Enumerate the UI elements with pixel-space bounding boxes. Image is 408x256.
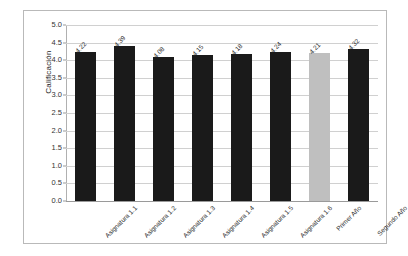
y-axis-tick-label: 0.5	[52, 180, 62, 188]
y-axis-tick-label: 4.5	[52, 39, 62, 47]
y-axis-tick-label: 1.5	[52, 144, 62, 152]
x-axis-category-label: Segundo Año	[376, 205, 408, 237]
y-axis-tick-mark	[63, 95, 66, 96]
y-axis-tick-label: 1.0	[52, 162, 62, 170]
bar[interactable]	[309, 53, 330, 201]
y-axis-tick-label: 2.0	[52, 127, 62, 135]
bar[interactable]	[270, 52, 291, 201]
x-axis-category-label: Asignatura 1.6	[299, 205, 333, 239]
y-axis-tick-label: 2.5	[52, 109, 62, 117]
plot-area: 0.00.51.01.52.02.53.03.54.04.55.0 4.224.…	[66, 25, 378, 201]
x-axis-category-label: Asignatura 1.4	[221, 205, 255, 239]
x-axis-category-label: Asignatura 1.5	[260, 205, 294, 239]
y-axis-tick-mark	[63, 201, 66, 202]
y-axis-tick-mark	[63, 25, 66, 26]
y-axis-tick-label: 4.0	[52, 56, 62, 64]
x-axis-category-label: Asignatura 1.3	[182, 205, 216, 239]
gridline	[66, 25, 378, 26]
x-axis-category-label: Primer Año	[335, 205, 362, 232]
y-axis-tick-mark	[63, 60, 66, 61]
bar[interactable]	[114, 46, 135, 201]
y-axis-tick-mark	[63, 183, 66, 184]
y-axis-tick-mark	[63, 165, 66, 166]
y-axis-tick-mark	[63, 77, 66, 78]
chart-frame: Calificación 0.00.51.01.52.02.53.03.54.0…	[23, 10, 387, 244]
y-axis-tick-label: 3.0	[52, 92, 62, 100]
y-axis-tick-mark	[63, 113, 66, 114]
bar[interactable]	[75, 52, 96, 201]
bar[interactable]	[192, 55, 213, 201]
y-axis-tick-label: 0.0	[52, 197, 62, 205]
y-axis-tick-label: 3.5	[52, 74, 62, 82]
bar[interactable]	[231, 54, 252, 201]
y-axis-tick-mark	[63, 130, 66, 131]
bar[interactable]	[348, 49, 369, 201]
x-axis-category-label: Asignatura 1.1	[104, 205, 138, 239]
bar[interactable]	[153, 57, 174, 201]
y-axis-tick-mark	[63, 148, 66, 149]
y-axis-tick-mark	[63, 42, 66, 43]
x-axis-category-label: Asignatura 1.2	[143, 205, 177, 239]
y-axis-tick-label: 5.0	[52, 21, 62, 29]
gridline	[66, 201, 378, 202]
